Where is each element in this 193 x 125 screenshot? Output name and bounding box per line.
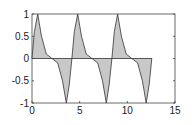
- y-tick-label: -0.5: [12, 75, 30, 86]
- y-tick-label: 0: [23, 53, 29, 64]
- y-tick-label: -1: [20, 98, 29, 109]
- x-tick-label: 15: [169, 105, 181, 116]
- x-tick-label: 5: [77, 105, 83, 116]
- y-tick-label: 0.5: [15, 31, 29, 42]
- x-tick-label: 0: [29, 105, 35, 116]
- x-tick-label: 10: [122, 105, 134, 116]
- area-chart: 051015 10.50-0.5-1: [0, 0, 193, 125]
- y-tick-label: 1: [23, 9, 29, 20]
